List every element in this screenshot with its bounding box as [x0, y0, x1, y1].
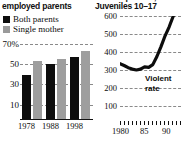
- line-x-tick-1980: 1980: [112, 127, 129, 136]
- legend-label-both-parents: Both parents: [13, 15, 59, 24]
- legend-item-both-parents: Both parents: [3, 15, 64, 24]
- legend-label-single-mother: Single mother: [13, 25, 64, 34]
- line-tick-mark: [140, 121, 141, 125]
- bar-1978-both-parents: [22, 75, 31, 120]
- bar-chart-plot-area: [20, 44, 93, 120]
- bar-chart-y-axis: 70% 50 30 10: [0, 44, 19, 120]
- line-tick-mark: [156, 121, 157, 125]
- line-tick-mark: [152, 121, 153, 125]
- line-tick-mark: [164, 121, 165, 125]
- line-tick-mark: [144, 121, 145, 125]
- line-tick-mark: [168, 121, 169, 125]
- line-x-tick-85: 85: [140, 127, 149, 136]
- panel-families-employed-parents: Families with employed parents Both pare…: [0, 0, 93, 154]
- left-chart-title-line2: employed parents: [2, 2, 93, 11]
- line-tick-mark: [132, 121, 133, 125]
- line-chart-x-axis: 1980 85 90: [110, 127, 181, 138]
- line-tick-mark: [120, 121, 121, 125]
- line-y-tick-100: 100: [104, 102, 117, 111]
- right-chart-title-line2: Juveniles 10–17: [95, 2, 181, 11]
- annotation-violent-line1: Violent: [145, 75, 172, 84]
- line-y-tick-400: 400: [104, 48, 117, 57]
- bar-1998-both-parents: [70, 57, 79, 120]
- line-tick-mark: [172, 121, 173, 125]
- bar-y-tick-50: 50: [10, 60, 19, 69]
- legend-item-single-mother: Single mother: [3, 25, 64, 34]
- legend: Both parents Single mother: [3, 15, 64, 35]
- line-tick-mark: [136, 121, 137, 125]
- line-y-tick-200: 200: [104, 84, 117, 93]
- violent-rate-line: [120, 16, 181, 120]
- line-y-tick-600: 600: [104, 12, 117, 21]
- legend-swatch-icon-single-mother: [3, 26, 10, 33]
- line-tick-mark: [148, 121, 149, 125]
- bar-y-tick-30: 30: [10, 80, 19, 89]
- line-x-tick-90: 90: [162, 127, 171, 136]
- line-y-tick-500: 500: [104, 30, 117, 39]
- bar-chart-x-axis: 1978 1988 1998: [20, 122, 93, 133]
- bar-1998-single-mother: [81, 51, 90, 120]
- bar-gridline-70: [20, 44, 93, 45]
- bar-chart-baseline: [20, 119, 93, 120]
- line-chart-y-axis: 600 500 400 300 200 100: [93, 16, 117, 120]
- line-tick-mark: [128, 121, 129, 125]
- bar-1988-single-mother: [57, 59, 66, 120]
- bar-y-tick-70: 70%: [3, 40, 20, 49]
- bar-1988-both-parents: [46, 64, 55, 120]
- bar-x-tick-1978: 1978: [18, 122, 35, 131]
- line-y-tick-300: 300: [104, 66, 117, 75]
- legend-swatch-icon-both-parents: [3, 16, 10, 23]
- line-tick-mark: [124, 121, 125, 125]
- line-tick-mark: [176, 121, 177, 125]
- infographic-two-panel: Families with employed parents Both pare…: [0, 0, 181, 154]
- line-tick-mark: [160, 121, 161, 125]
- line-chart-tick-marks: [120, 121, 181, 126]
- line-chart-plot-area: Violent rate: [120, 16, 181, 120]
- bar-y-tick-10: 10: [10, 101, 19, 110]
- panel-juvenile-arrests: Arrests per 100,000 Juveniles 10–17 600 …: [93, 0, 181, 154]
- bar-x-tick-1998: 1998: [66, 122, 83, 131]
- line-tick-mark: [180, 121, 181, 125]
- bar-1978-single-mother: [33, 61, 42, 120]
- bar-x-tick-1988: 1988: [42, 122, 59, 131]
- annotation-violent-line2: rate: [145, 85, 160, 94]
